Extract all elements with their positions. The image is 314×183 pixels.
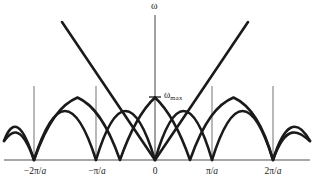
x-tick-0-prefix: −2π/: [24, 166, 42, 176]
x-tick-label-origin: 0: [143, 167, 167, 177]
x-tick-1-prefix: −π/: [88, 166, 101, 176]
omega-max-label: ωmax: [164, 91, 183, 101]
x-tick-2-prefix: 0: [153, 166, 158, 176]
acoustic-branch-left: [4, 98, 155, 161]
omega-max-subscript: max: [170, 94, 183, 101]
x-tick-1-var: a: [101, 166, 106, 176]
x-tick-label-2pi-over-a: 2π/a: [255, 167, 291, 177]
x-tick-label-pi-over-a: π/a: [197, 167, 227, 177]
sine-lobe-minus-one: [34, 111, 96, 160]
linear-dispersion-left: [62, 22, 155, 160]
sine-lobe-plus-one: [212, 111, 273, 160]
y-axis-label-omega: ω: [151, 1, 158, 11]
x-tick-label-minus-pi-over-a: −π/a: [79, 167, 115, 177]
x-tick-4-var: a: [277, 166, 282, 176]
acoustic-branch-right: [155, 98, 310, 161]
sine-lobe-left-edge: [4, 127, 34, 160]
x-tick-4-prefix: 2π/: [265, 166, 277, 176]
x-tick-3-var: a: [213, 166, 218, 176]
x-tick-0-var: a: [41, 166, 46, 176]
x-tick-label-minus-2pi-over-a: −2π/a: [14, 167, 56, 177]
phonon-dispersion-figure: ω ωmax −2π/a −π/a 0 π/a 2π/a: [0, 0, 314, 183]
dispersion-plot-svg: [0, 0, 314, 183]
